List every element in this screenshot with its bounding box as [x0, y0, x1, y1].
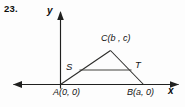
point-label-A: A(0, 0) — [53, 88, 80, 97]
geometry-figure: 23. y x C(b , c) A(0, 0) B(a, 0) S T — [0, 0, 185, 107]
point-label-C-text: C(b , c) — [101, 33, 131, 43]
point-label-B-text: B(a, 0) — [127, 87, 154, 97]
x-axis-left-arrowhead — [13, 81, 22, 88]
point-label-B: B(a, 0) — [127, 88, 154, 97]
y-axis-arrowhead — [57, 11, 64, 20]
problem-number: 23. — [4, 4, 18, 14]
point-label-S: S — [66, 62, 72, 72]
y-axis-label: y — [47, 6, 53, 16]
point-label-A-text: A(0, 0) — [53, 87, 80, 97]
point-label-C: C(b , c) — [101, 34, 131, 43]
x-axis-label: x — [168, 86, 174, 96]
coordinate-plane-drawing — [0, 0, 185, 107]
point-label-T: T — [135, 60, 141, 70]
